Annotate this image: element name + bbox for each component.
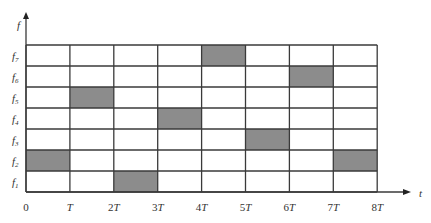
occupied-cell [26, 150, 70, 171]
y-tick-label: f1 [12, 176, 19, 190]
occupied-cell [333, 150, 377, 171]
y-tick-label: f5 [12, 92, 19, 106]
x-tick-label: T [67, 201, 74, 213]
y-axis-label: f [17, 19, 22, 31]
y-tick-label: f2 [12, 155, 19, 169]
y-tick-label: f7 [12, 50, 19, 64]
occupied-cell [289, 66, 333, 87]
occupied-cell [158, 108, 202, 129]
occupied-cell [114, 171, 158, 192]
occupied-cell [202, 45, 246, 66]
y-tick-label: f6 [12, 71, 19, 85]
x-tick-label: 8T [371, 201, 384, 213]
occupied-cell [246, 129, 290, 150]
y-axis-arrow-icon [23, 12, 29, 19]
x-axis-arrow-icon [403, 189, 411, 195]
x-tick-label: 0 [23, 201, 29, 213]
x-tick-label: 4T [196, 201, 209, 213]
occupied-cell [70, 87, 114, 108]
y-tick-label: f4 [12, 113, 19, 127]
x-tick-label: 5T [240, 201, 253, 213]
x-tick-label: 2T [108, 201, 121, 213]
frequency-hopping-diagram: ftf7f6f5f4f3f2f10T2T3T4T5T6T7T8T [0, 0, 431, 223]
x-axis-label: t [419, 187, 423, 199]
x-tick-label: 7T [327, 201, 340, 213]
x-tick-label: 3T [152, 201, 165, 213]
y-tick-label: f3 [12, 134, 19, 148]
x-tick-label: 6T [284, 201, 297, 213]
